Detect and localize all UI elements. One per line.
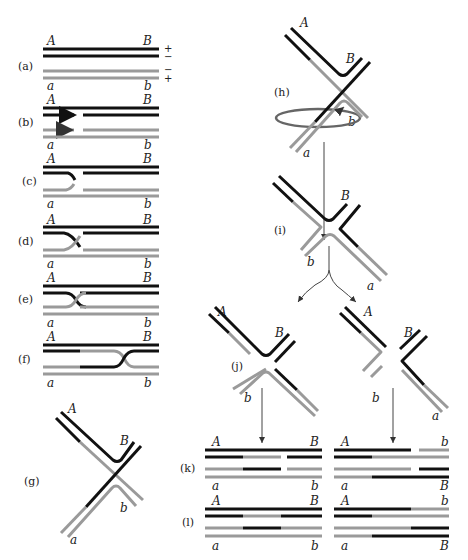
label-b: b xyxy=(307,255,315,269)
panel-label: (l) xyxy=(182,516,194,529)
label-A: A xyxy=(299,16,309,30)
label-A: A xyxy=(363,305,373,319)
label-B: B xyxy=(142,213,152,227)
label-a: a xyxy=(47,79,54,93)
label-b: b xyxy=(144,79,152,93)
panel-j-right: A B b a xyxy=(340,305,448,443)
label-B: B xyxy=(309,494,319,508)
panel-label: (b) xyxy=(18,116,34,129)
label-b: b xyxy=(144,197,152,211)
panel-i: B b a (i) xyxy=(273,176,387,302)
label-a: a xyxy=(212,479,219,493)
invading-strand xyxy=(43,173,75,180)
panel-d: A B (d) a b xyxy=(18,213,159,271)
strand xyxy=(402,370,442,412)
panel-label: (c) xyxy=(22,175,37,188)
label-b: b xyxy=(120,501,128,515)
panel-k-right: A b a B xyxy=(334,435,449,493)
arrow-i-to-j-right xyxy=(329,270,356,302)
label-a: a xyxy=(212,539,219,553)
panel-c: A B (c) a b xyxy=(22,152,159,211)
label-a: a xyxy=(47,316,54,330)
label-b: b xyxy=(441,435,449,449)
label-A: A xyxy=(46,271,56,285)
label-b: b xyxy=(144,316,152,330)
label-A: A xyxy=(46,152,56,166)
label-A: A xyxy=(340,494,350,508)
strand xyxy=(340,313,361,333)
panel-l-right: A b a B xyxy=(334,494,449,553)
label-B: B xyxy=(345,52,355,66)
panel-l-left: (l) A B a b xyxy=(182,494,322,553)
strand xyxy=(80,442,143,500)
panel-label: (e) xyxy=(18,293,33,306)
label-b: b xyxy=(311,479,319,493)
strand xyxy=(340,205,360,247)
label-b: b xyxy=(144,257,152,271)
panel-label: (h) xyxy=(274,86,290,99)
panel-label: (i) xyxy=(274,224,286,237)
label-b: b xyxy=(372,391,380,405)
panel-label: (g) xyxy=(24,475,40,488)
label-b: b xyxy=(311,539,319,553)
label-A: A xyxy=(211,435,221,449)
label-a: a xyxy=(432,409,439,423)
recombination-diagram: A B + − − + (a) a b A B (b) a b A B (c) xyxy=(0,0,468,560)
panel-f: A B (f) a b xyxy=(18,330,159,390)
strand xyxy=(56,418,80,442)
strand xyxy=(285,35,310,60)
panel-a: A B + − − + (a) a b xyxy=(18,34,172,93)
sign: + xyxy=(164,73,172,84)
panel-label: (f) xyxy=(18,353,31,366)
label-b: b xyxy=(244,391,252,405)
panel-label: (k) xyxy=(180,462,195,475)
label-a: a xyxy=(47,376,54,390)
label-a: a xyxy=(367,279,374,293)
sign: − xyxy=(164,51,172,62)
panel-b: A B (b) a b xyxy=(18,93,159,152)
label-a: a xyxy=(341,539,348,553)
label-A: A xyxy=(46,34,56,48)
label-B: B xyxy=(142,330,152,344)
label-B: B xyxy=(142,34,152,48)
label-a: a xyxy=(47,197,54,211)
panel-h: A B b a (h) xyxy=(274,16,370,240)
label-A: A xyxy=(46,213,56,227)
invading-strand xyxy=(43,184,74,190)
panel-g: A B b a (g) xyxy=(24,402,143,547)
panel-label: (a) xyxy=(18,60,33,73)
strand xyxy=(229,333,250,354)
label-B: B xyxy=(439,479,449,493)
panel-j-left: (j) A B b xyxy=(209,305,318,443)
label-B: B xyxy=(119,434,129,448)
label-a: a xyxy=(47,138,54,152)
panel-e: A B (e) a b xyxy=(18,271,159,330)
label-B: B xyxy=(142,152,152,166)
label-a: a xyxy=(341,479,348,493)
label-A: A xyxy=(67,402,77,416)
label-A: A xyxy=(211,494,221,508)
label-b: b xyxy=(144,138,152,152)
panel-label: (j) xyxy=(231,360,243,373)
label-b: b xyxy=(144,376,152,390)
strand xyxy=(371,366,382,377)
label-A: A xyxy=(46,330,56,344)
label-A: A xyxy=(340,435,350,449)
label-B: B xyxy=(439,539,449,553)
label-B: B xyxy=(340,189,350,203)
label-B: B xyxy=(309,435,319,449)
label-a: a xyxy=(303,146,310,160)
panel-label: (d) xyxy=(18,235,34,248)
label-b: b xyxy=(441,494,449,508)
label-B: B xyxy=(274,326,284,340)
panel-k-left: (k) A B a b xyxy=(180,435,322,493)
label-B: B xyxy=(142,93,152,107)
label-B: B xyxy=(142,271,152,285)
label-a: a xyxy=(47,257,54,271)
label-A: A xyxy=(46,93,56,107)
